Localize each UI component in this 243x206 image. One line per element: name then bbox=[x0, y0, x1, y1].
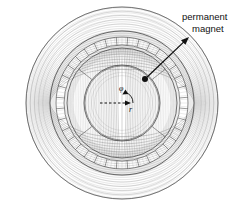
callout-anchor-dot bbox=[142, 76, 148, 82]
flux-plot-svg: φ r permanent magnet bbox=[0, 0, 243, 206]
figure-container: φ r permanent magnet bbox=[0, 0, 243, 206]
magnet-label-line-2: magnet bbox=[192, 23, 224, 34]
phi-symbol-label: φ bbox=[119, 84, 124, 93]
magnet-label-line-1: permanent bbox=[182, 11, 228, 22]
